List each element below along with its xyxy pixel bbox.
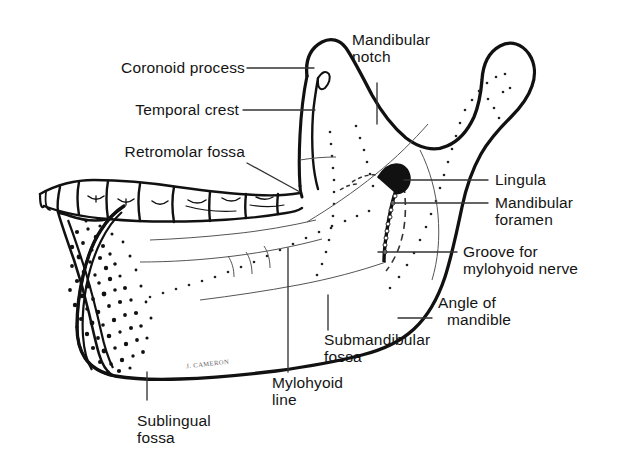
mandible-diagram-page: Coronoid process Temporal crest Retromol… [0, 0, 621, 471]
label-mandibular-foramen-line2: foramen [495, 211, 553, 229]
label-lingula: Lingula [495, 171, 546, 189]
leader-retromolar-fossa [247, 163, 300, 192]
label-mandibular-foramen-line1: Mandibular [495, 194, 573, 212]
label-mandibular-notch-line1: Mandibular [352, 31, 430, 49]
label-retromolar-fossa: Retromolar fossa [45, 143, 245, 161]
label-angle-of-mandible-line2: mandible [447, 311, 511, 329]
label-mylohyoid-line-line1: Mylohyoid [272, 374, 343, 392]
cancellous-bone-section [58, 206, 153, 376]
label-mandibular-notch-line2: notch [352, 48, 391, 66]
label-coronoid-process: Coronoid process [55, 59, 245, 77]
label-sublingual-fossa-line1: Sublingual [137, 412, 211, 430]
label-mylohyoid-line-line2: line [272, 391, 297, 409]
label-groove-mylohyoid-line2: mylohyoid nerve [463, 260, 578, 278]
label-temporal-crest: Temporal crest [55, 101, 239, 119]
label-angle-of-mandible-line1: Angle of [438, 294, 496, 312]
label-sublingual-fossa-line2: fossa [137, 429, 175, 447]
label-submandibular-fossa-line1: Submandibular [324, 331, 430, 349]
label-submandibular-fossa-line2: fossa [324, 348, 362, 366]
teeth-row [40, 180, 302, 222]
label-groove-mylohyoid-line1: Groove for [463, 243, 538, 261]
